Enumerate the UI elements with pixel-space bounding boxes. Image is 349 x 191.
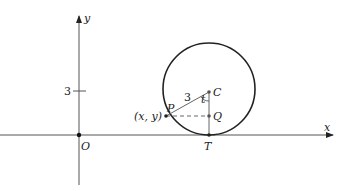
center-label-C: C [213, 86, 222, 99]
x-axis-label: x [324, 121, 331, 134]
origin-dot [77, 133, 81, 137]
point-dot-T [207, 133, 211, 137]
origin-label: O [81, 140, 90, 153]
point-coords-label: (x, y) [134, 110, 162, 123]
cycloid-diagram: y x O 3 C Q P (x, y) T 3 t [0, 0, 349, 191]
angle-label-t: t [201, 93, 206, 106]
y-axis-label: y [83, 12, 91, 25]
tangent-label-T: T [204, 140, 213, 153]
foot-label-Q: Q [213, 110, 222, 123]
point-label-P: P [166, 102, 175, 115]
radius-label: 3 [184, 91, 191, 104]
center-dot-C [207, 90, 211, 94]
point-dot-Q [207, 114, 211, 118]
y-tick-label: 3 [64, 85, 71, 98]
